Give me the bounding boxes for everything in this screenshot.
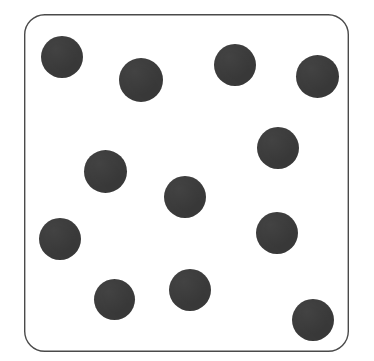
dot-bottom-center [169,269,211,311]
dot-top-third [214,44,256,86]
dot-bottom-right [292,299,334,341]
dot-top-left [41,36,83,78]
dot-mid-left [84,150,127,193]
dot-top-second [119,58,163,102]
dot-card-scene [0,0,374,361]
dot-upper-right [257,127,299,169]
dot-lower-left [39,218,81,260]
dot-top-right [296,55,339,98]
dot-lower-right [256,212,298,254]
dot-center [164,176,206,218]
dot-bottom-left [94,279,135,320]
